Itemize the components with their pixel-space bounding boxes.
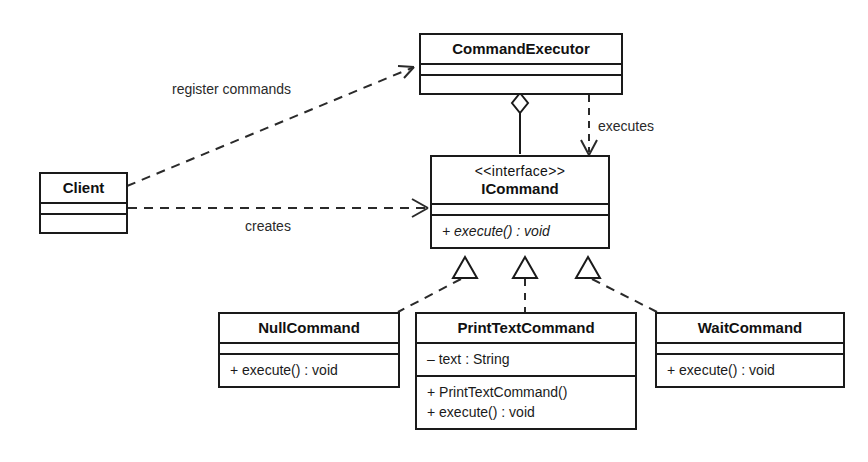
method-printtextcommand-constructor: + PrintTextCommand() (427, 382, 625, 402)
class-box-waitcommand[interactable]: WaitCommand + execute() : void (655, 312, 845, 388)
edge-creates (128, 199, 428, 217)
edge-realization-printtextcommand (513, 257, 537, 312)
class-attributes-nullcommand (220, 344, 398, 355)
edge-realization-nullcommand (398, 257, 477, 312)
class-attributes-client (41, 204, 126, 215)
class-methods-commandexecutor (421, 76, 621, 93)
class-box-nullcommand[interactable]: NullCommand + execute() : void (218, 312, 400, 388)
class-name-printtextcommand: PrintTextCommand (417, 314, 635, 344)
class-attributes-commandexecutor (421, 65, 621, 76)
class-methods-icommand: + execute() : void (432, 216, 608, 247)
edge-realization-waitcommand (576, 257, 657, 312)
class-name-nullcommand: NullCommand (220, 314, 398, 344)
class-methods-nullcommand: + execute() : void (220, 355, 398, 386)
method-icommand-execute: + execute() : void (442, 221, 598, 241)
class-methods-client (41, 215, 126, 232)
method-waitcommand-execute: + execute() : void (667, 360, 833, 380)
class-attributes-printtextcommand: – text : String (417, 344, 635, 377)
stereotype-interface: <<interface>> (442, 162, 598, 180)
class-name-icommand: <<interface>> ICommand (432, 157, 608, 205)
edge-label-executes: executes (598, 118, 654, 134)
class-methods-printtextcommand: + PrintTextCommand() + execute() : void (417, 377, 635, 428)
class-methods-waitcommand: + execute() : void (657, 355, 843, 386)
class-name-client: Client (41, 174, 126, 204)
class-name-label-icommand: ICommand (481, 180, 559, 197)
edge-aggregation (512, 93, 528, 154)
method-printtextcommand-execute: + execute() : void (427, 402, 625, 422)
class-name-waitcommand: WaitCommand (657, 314, 843, 344)
class-box-icommand[interactable]: <<interface>> ICommand + execute() : voi… (430, 155, 610, 249)
edge-label-creates: creates (245, 218, 291, 234)
class-box-printtextcommand[interactable]: PrintTextCommand – text : String + Print… (415, 312, 637, 430)
edge-label-register-commands: register commands (172, 81, 291, 97)
edge-executes (581, 95, 597, 155)
method-nullcommand-execute: + execute() : void (230, 360, 388, 380)
attribute-printtextcommand-text: – text : String (427, 349, 625, 369)
uml-class-diagram: Client CommandExecutor <<interface>> ICo… (0, 0, 868, 462)
class-attributes-icommand (432, 205, 608, 216)
class-box-commandexecutor[interactable]: CommandExecutor (419, 33, 623, 95)
class-name-commandexecutor: CommandExecutor (421, 35, 621, 65)
class-attributes-waitcommand (657, 344, 843, 355)
class-box-client[interactable]: Client (39, 172, 128, 234)
